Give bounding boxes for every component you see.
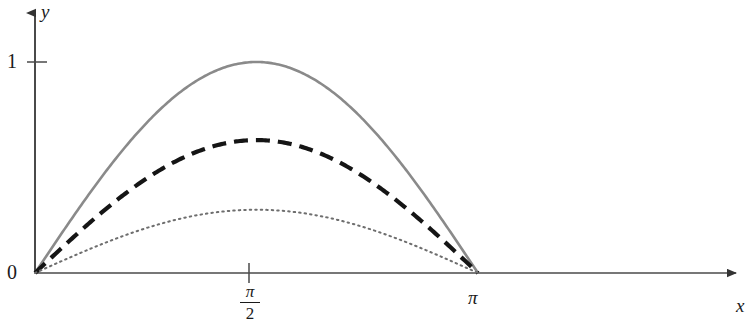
y-tick-label-one: 1 [7, 51, 17, 71]
pi-half-numerator: π [239, 283, 261, 301]
plot-canvas [0, 0, 749, 330]
x-axis-label: x [736, 296, 744, 315]
dotted-curve [35, 210, 478, 273]
y-axis-label: y [41, 2, 49, 21]
fraction-bar [240, 302, 260, 303]
solid-curve [35, 62, 478, 273]
pi-half-denominator: 2 [239, 304, 261, 322]
sine-curves-figure: y x 1 0 π 2 π [0, 0, 749, 330]
x-tick-label-pi: π [468, 288, 478, 307]
origin-label-zero: 0 [7, 262, 17, 282]
x-tick-label-pi-half: π 2 [239, 283, 261, 322]
dashed-curve [35, 140, 478, 273]
curve-group [35, 62, 478, 273]
